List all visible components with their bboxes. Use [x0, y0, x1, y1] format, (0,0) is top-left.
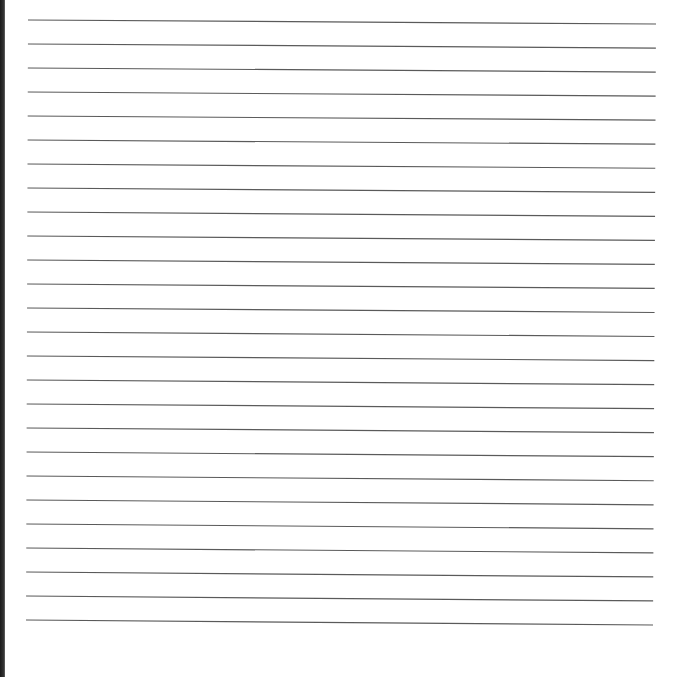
ruled-line	[27, 332, 654, 337]
ruled-line	[27, 404, 654, 409]
ruled-lines	[0, 0, 676, 677]
ruled-line	[26, 620, 653, 625]
ruled-line	[27, 260, 655, 264]
ruled-line	[28, 140, 656, 144]
ruled-line	[28, 68, 656, 72]
ruled-line	[28, 92, 656, 96]
ruled-line	[27, 236, 655, 240]
ruled-line	[27, 212, 655, 216]
ruled-line	[27, 452, 654, 457]
ruled-line	[27, 380, 654, 385]
ruled-line	[27, 356, 654, 361]
ruled-line	[27, 308, 655, 312]
ruled-line	[26, 500, 653, 505]
ruled-line	[26, 596, 653, 601]
ruled-line	[28, 20, 656, 24]
ruled-line	[28, 164, 656, 168]
ruled-line	[26, 524, 653, 529]
ruled-line	[28, 44, 656, 48]
ruled-line	[27, 188, 655, 192]
ruled-line	[27, 284, 655, 288]
ruled-line	[27, 428, 654, 433]
ruled-line	[26, 572, 653, 577]
ruled-line	[26, 548, 653, 553]
ruled-line	[26, 476, 653, 481]
ruled-line	[28, 116, 656, 120]
